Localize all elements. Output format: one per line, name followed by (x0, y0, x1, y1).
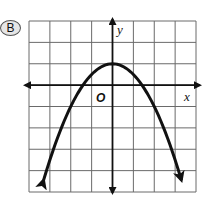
y-axis-label: y (115, 22, 123, 37)
origin-label: O (96, 91, 106, 105)
x-axis-label: x (183, 89, 190, 104)
parabola-graph: y x O (0, 0, 202, 208)
